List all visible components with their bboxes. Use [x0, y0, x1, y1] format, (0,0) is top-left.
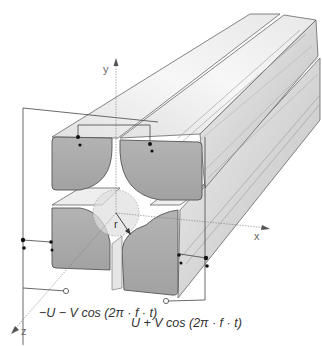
- terminal-left: [63, 288, 68, 293]
- z-axis-arrow-icon: [11, 326, 19, 334]
- quadrupole-diagram: [0, 0, 322, 346]
- y-axis-label: y: [103, 63, 109, 75]
- y-axis-arrow-icon: [114, 58, 119, 66]
- rod-upper-left-face: [52, 137, 112, 190]
- x-axis-label: x: [254, 230, 260, 242]
- radius-label: r: [114, 218, 118, 230]
- rod-upper-right-face: [120, 140, 202, 200]
- x-axis-arrow-icon: [261, 225, 270, 230]
- voltage-right-pair: U + V cos (2π · f · t): [131, 316, 242, 330]
- terminal-right: [163, 298, 168, 303]
- z-axis-label: z: [21, 325, 27, 337]
